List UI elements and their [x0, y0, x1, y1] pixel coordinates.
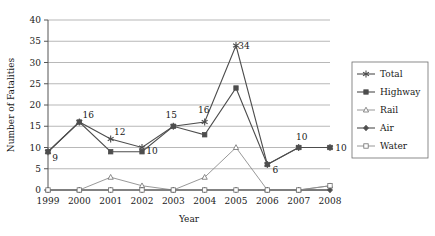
x-tick-label: 2006 — [256, 196, 279, 206]
series-path — [48, 186, 330, 190]
y-tick-label: 35 — [30, 36, 42, 46]
y-tick-label: 20 — [30, 100, 42, 110]
y-tick-label: 15 — [30, 121, 42, 131]
marker-square — [265, 162, 269, 166]
legend-item-label: Total — [380, 69, 403, 79]
series-water — [46, 184, 332, 193]
x-tick-label: 1999 — [37, 196, 60, 206]
marker-open-square — [202, 188, 206, 192]
data-label: 10 — [146, 146, 158, 156]
marker-open-square — [265, 188, 269, 192]
marker-triangle — [108, 174, 113, 179]
y-tick-label: 0 — [35, 185, 41, 195]
x-tick-label: 2002 — [131, 196, 154, 206]
marker-triangle — [233, 145, 238, 150]
data-label: 16 — [83, 110, 95, 120]
data-label: 10 — [296, 132, 308, 142]
marker-square — [364, 90, 368, 94]
legend-item-label: Water — [380, 141, 408, 151]
marker-square — [328, 145, 332, 149]
legend-item-label: Air — [379, 123, 394, 133]
legend-item-label: Rail — [380, 105, 398, 115]
data-label: 15 — [166, 110, 178, 120]
x-tick-label: 2008 — [319, 196, 342, 206]
marker-square — [46, 150, 50, 154]
marker-open-square — [140, 188, 144, 192]
data-labels: 916121015163461010 — [52, 41, 347, 175]
y-tick-labels: 0510152025303540 — [30, 15, 42, 195]
series-rail — [45, 145, 332, 192]
x-tick-labels: 1999200020012002200320042005200620072008 — [37, 196, 342, 206]
x-tick-label: 2003 — [162, 196, 185, 206]
data-label: 34 — [238, 41, 250, 51]
x-tick-label: 2000 — [68, 196, 91, 206]
marker-square — [140, 150, 144, 154]
data-label: 10 — [335, 143, 347, 153]
marker-open-square — [108, 188, 112, 192]
marker-open-square — [171, 188, 175, 192]
data-label: 16 — [198, 105, 210, 115]
marker-open-square — [234, 188, 238, 192]
chart-legend: TotalHighwayRailAirWater — [352, 62, 428, 158]
marker-open-square — [46, 188, 50, 192]
x-tick-label: 2005 — [225, 196, 248, 206]
marker-square — [202, 133, 206, 137]
gridlines — [48, 20, 330, 169]
marker-open-square — [328, 184, 332, 188]
marker-open-square — [364, 144, 368, 148]
marker-square — [296, 145, 300, 149]
x-tick-label: 2007 — [287, 196, 310, 206]
y-axis-title: Number of Fatalities — [6, 57, 16, 152]
y-tick-label: 30 — [30, 58, 42, 68]
chart-figure: 0510152025303540 19992000200120022003200… — [0, 0, 435, 236]
fatalities-line-chart: 0510152025303540 19992000200120022003200… — [0, 0, 435, 236]
marker-open-square — [77, 188, 81, 192]
legend-item-label: Highway — [380, 87, 421, 97]
x-tick-label: 2004 — [193, 196, 216, 206]
y-tick-label: 25 — [30, 79, 42, 89]
marker-square — [108, 150, 112, 154]
marker-square — [77, 120, 81, 124]
y-tick-label: 40 — [30, 15, 42, 25]
x-tick-label: 2001 — [99, 196, 122, 206]
x-axis-title: Year — [178, 214, 200, 224]
data-label: 6 — [272, 165, 278, 175]
marker-square — [234, 86, 238, 90]
marker-open-square — [296, 188, 300, 192]
data-label: 9 — [52, 153, 58, 163]
y-tick-label: 5 — [35, 164, 41, 174]
y-tick-label: 10 — [30, 143, 42, 153]
marker-square — [171, 124, 175, 128]
data-label: 12 — [114, 127, 125, 137]
